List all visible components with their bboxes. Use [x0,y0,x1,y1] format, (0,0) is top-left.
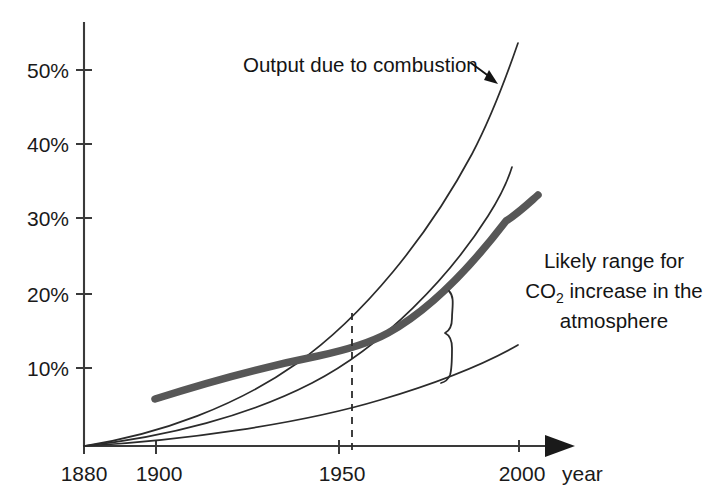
x-tick-label-1880: 1880 [61,462,108,485]
likely-range-brace [441,291,453,383]
annotation-combustion: Output due to combustion [243,53,498,84]
y-axis-ticks: 50% 40% 30% 20% 10% [27,59,92,380]
annotation-co2-suffix: increase in the [564,279,703,302]
x-tick-label-2000: 2000 [499,462,546,485]
annotation-combustion-label: Output due to combustion [243,53,478,76]
x-tick-label-1900: 1900 [136,462,183,485]
co2-emissions-line-chart: 50% 40% 30% 20% 10% 1880 1900 1950 2000 … [0,0,723,504]
chart-container: 50% 40% 30% 20% 10% 1880 1900 1950 2000 … [0,0,723,504]
annotation-likely-range: Likely range for CO2 increase in the atm… [525,249,703,332]
y-tick-label-50: 50% [27,59,69,82]
y-tick-label-40: 40% [27,133,69,156]
annotation-likely-range-line2: CO2 increase in the [525,279,703,306]
annotation-likely-range-line1: Likely range for [544,249,684,272]
x-tick-label-1950: 1950 [319,462,366,485]
series-line-upper-bound [84,167,512,446]
series-line-combustion [84,43,518,446]
y-tick-label-20: 20% [27,283,69,306]
x-axis-unit-label: year [562,462,603,485]
annotation-likely-range-line3: atmosphere [560,309,668,332]
annotation-co2-prefix: CO [525,279,556,302]
y-tick-label-30: 30% [27,207,69,230]
series-line-co2-observed [155,195,538,399]
y-tick-label-10: 10% [27,357,69,380]
annotation-combustion-arrow-icon [484,70,498,84]
annotation-co2-subscript: 2 [556,290,564,306]
x-axis-arrow-icon [545,435,575,457]
series-group [84,43,538,446]
